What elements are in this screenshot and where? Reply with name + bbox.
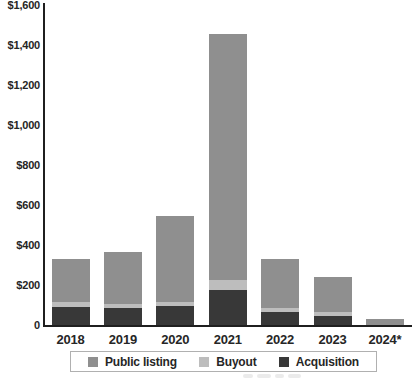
legend-label: Buyout <box>216 355 256 369</box>
legend-swatch-icon <box>88 357 98 367</box>
x-axis-line <box>43 325 412 327</box>
legend-swatch-icon <box>279 357 289 367</box>
bar-segment-public-listing <box>52 259 90 302</box>
bar-2019 <box>104 252 142 325</box>
bar-segment-acquisition <box>261 312 299 325</box>
bar-segment-acquisition <box>314 316 352 325</box>
bar-2021 <box>209 34 247 325</box>
bar-segment-acquisition <box>52 307 90 325</box>
bar-2022 <box>261 259 299 325</box>
x-axis-label: 2023 <box>305 332 361 347</box>
bar-2023 <box>314 277 352 325</box>
bar-2018 <box>52 259 90 325</box>
legend: Public listingBuyoutAcquisition <box>70 351 377 372</box>
legend-label: Public listing <box>105 355 177 369</box>
bar-2020 <box>156 216 194 325</box>
clipped-watermark <box>243 374 305 383</box>
bar-segment-public-listing <box>261 259 299 308</box>
bar-segment-acquisition <box>104 308 142 325</box>
x-axis-label: 2022 <box>252 332 308 347</box>
bar-segment-acquisition <box>209 290 247 325</box>
bar-segment-public-listing <box>209 34 247 280</box>
x-axis-label: 2019 <box>95 332 151 347</box>
x-axis-label: 2018 <box>43 332 99 347</box>
bar-segment-acquisition <box>156 306 194 325</box>
bar-segment-public-listing <box>156 216 194 302</box>
bar-segment-public-listing <box>104 252 142 304</box>
bar-segment-public-listing <box>314 277 352 312</box>
legend-item-acquisition: Acquisition <box>279 355 359 369</box>
legend-label: Acquisition <box>296 355 359 369</box>
x-axis-label: 2020 <box>147 332 203 347</box>
x-axis-label: 2024* <box>357 332 413 347</box>
legend-item-public-listing: Public listing <box>88 355 177 369</box>
x-axis-label: 2021 <box>200 332 256 347</box>
stacked-bar-chart: $1,600$1,400$1,200$1,000$800$600$400$200… <box>0 0 420 383</box>
legend-swatch-icon <box>199 357 209 367</box>
plot-area <box>0 0 420 325</box>
bar-segment-buyout <box>209 280 247 290</box>
legend-item-buyout: Buyout <box>199 355 256 369</box>
